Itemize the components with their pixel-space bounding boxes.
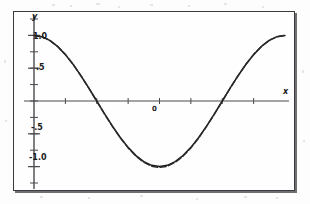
y-axis-label: y <box>32 13 37 21</box>
y-tick-label-3: -.5 <box>31 124 43 132</box>
cosine-plot <box>13 11 295 191</box>
y-tick-label-2: .5 <box>36 64 45 72</box>
y-tick-label-1: 1.0 <box>33 33 47 41</box>
x-axis-label: x <box>283 88 288 96</box>
y-tick-label-4: -1.0 <box>29 154 47 162</box>
screenshot-root: y x 1.0 .5 -.5 -1.0 0 <box>0 0 310 204</box>
x-tick-label-origin: 0 <box>152 105 157 113</box>
